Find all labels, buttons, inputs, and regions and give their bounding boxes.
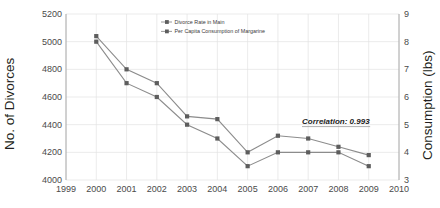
data-point-marker <box>306 150 310 154</box>
left-axis-tick-label: 4600 <box>42 92 62 102</box>
data-point-marker <box>155 95 159 99</box>
data-point-marker <box>276 150 280 154</box>
legend-item-label: Per Capita Consumption of Margarine <box>175 28 266 34</box>
x-axis-tick-label: 2006 <box>268 184 288 194</box>
data-point-marker <box>367 164 371 168</box>
data-point-marker <box>185 114 189 118</box>
legend-marker-swatch <box>165 20 169 24</box>
data-point-marker <box>124 81 128 85</box>
x-axis-tick-label: 2009 <box>359 184 379 194</box>
data-point-marker <box>246 150 250 154</box>
legend-item-label: Divorce Rate in Main <box>175 19 225 25</box>
data-point-marker <box>124 67 128 71</box>
data-point-marker <box>94 34 98 38</box>
legend-item-margarine-consumption[interactable]: Per Capita Consumption of Margarine <box>161 28 265 34</box>
x-axis-tick-label: 2007 <box>298 184 318 194</box>
data-point-marker <box>215 117 219 121</box>
x-axis-tick-label: 2010 <box>389 184 409 194</box>
left-axis-title: No. of Divorces <box>2 57 17 150</box>
data-point-marker <box>276 134 280 138</box>
data-point-marker <box>367 153 371 157</box>
right-axis-tick-label: 4 <box>404 147 409 157</box>
data-point-marker <box>155 81 159 85</box>
legend-marker-swatch <box>165 30 169 34</box>
right-axis-tick-label: 8 <box>404 37 409 47</box>
x-axis-tick-label: 1999 <box>56 184 76 194</box>
data-point-marker <box>336 145 340 149</box>
right-axis-tick-label: 6 <box>404 92 409 102</box>
correlation-annotation: Correlation: 0.993 <box>302 117 370 127</box>
left-axis-tick-label: 4400 <box>42 120 62 130</box>
x-axis-tick-label: 2004 <box>207 184 227 194</box>
data-point-marker <box>246 164 250 168</box>
right-axis-title: Consumption (lbs) <box>420 50 435 160</box>
x-axis-tick-label: 2002 <box>147 184 167 194</box>
right-axis-tick-label: 9 <box>404 9 409 19</box>
x-axis-tick-label: 2005 <box>238 184 258 194</box>
left-axis-tick-label: 4200 <box>42 147 62 157</box>
data-point-marker <box>185 123 189 127</box>
left-axis-tick-label: 5000 <box>42 37 62 47</box>
data-point-marker <box>215 136 219 140</box>
data-point-marker <box>306 136 310 140</box>
data-point-marker <box>94 40 98 44</box>
right-axis-tick-label: 7 <box>404 64 409 74</box>
left-axis-tick-label: 4800 <box>42 64 62 74</box>
spurious-correlation-chart: 4000420044004600480050005200 3456789 199… <box>0 0 440 208</box>
data-point-marker <box>336 150 340 154</box>
chart-container: 4000420044004600480050005200 3456789 199… <box>0 0 440 208</box>
right-axis-tick-label: 5 <box>404 120 409 130</box>
correlation-annotation-label: Correlation: 0.993 <box>302 117 370 126</box>
x-axis-tick-label: 2003 <box>177 184 197 194</box>
left-axis-tick-label: 5200 <box>42 9 62 19</box>
x-axis-tick-label: 2008 <box>328 184 348 194</box>
x-axis-tick-label: 2000 <box>86 184 106 194</box>
x-axis-tick-label: 2001 <box>117 184 137 194</box>
